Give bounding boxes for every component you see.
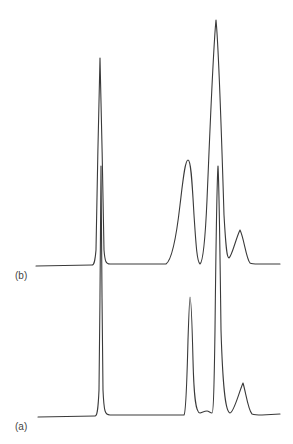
- chromatogram-chart: [0, 0, 293, 444]
- trace-b-label: (b): [15, 270, 27, 281]
- trace-a-label: (a): [15, 421, 27, 432]
- trace-a: [38, 166, 280, 417]
- trace-b: [36, 20, 280, 266]
